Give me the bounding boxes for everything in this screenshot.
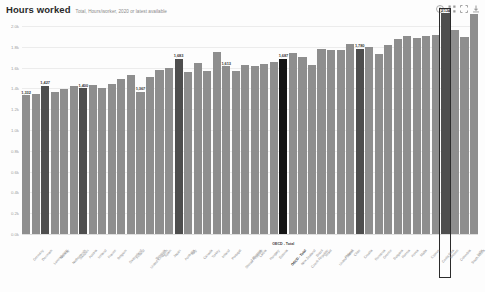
bar[interactable]	[194, 63, 202, 234]
bar[interactable]	[98, 88, 106, 234]
bar-slot[interactable]	[194, 26, 202, 234]
bar-slot[interactable]	[413, 26, 421, 234]
bar[interactable]	[41, 86, 49, 234]
bar[interactable]	[337, 50, 345, 234]
bar[interactable]	[270, 62, 278, 234]
bar[interactable]	[146, 77, 154, 234]
bar[interactable]	[251, 66, 259, 234]
x-axis-label[interactable]: Malta	[420, 249, 429, 258]
bar[interactable]	[51, 92, 59, 234]
bar-slot[interactable]	[327, 26, 335, 234]
bar[interactable]	[470, 14, 478, 234]
bar-slot[interactable]	[375, 26, 383, 234]
bar-slot[interactable]	[451, 26, 459, 234]
bar[interactable]	[375, 54, 383, 234]
bar-slot[interactable]: 1,427	[41, 26, 49, 234]
bar[interactable]	[460, 37, 468, 234]
bar-slot[interactable]	[51, 26, 59, 234]
bar[interactable]	[108, 84, 116, 234]
x-axis-label[interactable]: Colombia	[460, 249, 473, 262]
bar-slot[interactable]	[203, 26, 211, 234]
bar-slot[interactable]	[70, 26, 78, 234]
bar[interactable]	[32, 94, 40, 234]
bar[interactable]	[279, 59, 287, 234]
x-axis-label[interactable]: Cyprus	[430, 249, 440, 260]
bar[interactable]	[165, 68, 173, 234]
bar-slot[interactable]: 1,683	[175, 26, 183, 234]
bar[interactable]	[222, 66, 230, 234]
bar-slot[interactable]	[394, 26, 402, 234]
bar-slot[interactable]	[251, 26, 259, 234]
bar-slot[interactable]	[422, 26, 430, 234]
download-icon[interactable]	[472, 5, 480, 13]
bar-slot[interactable]	[308, 26, 316, 234]
bar[interactable]	[327, 50, 335, 234]
x-axis-label[interactable]: France	[107, 249, 117, 260]
x-axis-label[interactable]: Japan	[173, 249, 182, 259]
bar-slot[interactable]	[241, 26, 249, 234]
bar[interactable]	[79, 88, 87, 234]
fullscreen-icon[interactable]	[460, 5, 468, 13]
bar[interactable]	[203, 71, 211, 234]
bar[interactable]	[317, 49, 325, 234]
bar[interactable]	[89, 85, 97, 234]
bar[interactable]	[155, 70, 163, 234]
bar[interactable]	[346, 44, 354, 234]
x-axis-label[interactable]: Iceland	[97, 249, 107, 260]
bar-slot[interactable]	[460, 26, 468, 234]
bar[interactable]	[117, 79, 125, 234]
bar-slot[interactable]	[146, 26, 154, 234]
bar-slot[interactable]: 1,613	[222, 26, 230, 234]
x-axis-label[interactable]: Korea	[410, 249, 419, 258]
bar-slot[interactable]	[365, 26, 373, 234]
bar-slot[interactable]	[298, 26, 306, 234]
bar-slot[interactable]	[98, 26, 106, 234]
x-axis-label[interactable]: Croatia	[363, 249, 373, 260]
x-axis-label[interactable]: Norway	[60, 249, 71, 260]
bar-slot[interactable]	[213, 26, 221, 234]
bar-slot[interactable]	[165, 26, 173, 234]
bar-slot[interactable]: 1,400	[79, 26, 87, 234]
bar[interactable]	[308, 65, 316, 234]
bar-slot[interactable]	[32, 26, 40, 234]
bar[interactable]	[441, 13, 449, 234]
bar[interactable]	[384, 45, 392, 234]
bar[interactable]	[451, 30, 459, 234]
bar-slot[interactable]	[127, 26, 135, 234]
bar-slot[interactable]	[346, 26, 354, 234]
bar[interactable]	[413, 38, 421, 234]
bar-slot[interactable]	[270, 26, 278, 234]
bar-slot[interactable]	[260, 26, 268, 234]
bar[interactable]	[241, 65, 249, 234]
bar-slot[interactable]	[384, 26, 392, 234]
bar[interactable]	[289, 53, 297, 234]
bar-slot[interactable]	[317, 26, 325, 234]
bar[interactable]	[260, 64, 268, 234]
bar-slot[interactable]	[403, 26, 411, 234]
x-axis-label[interactable]: Ireland	[221, 249, 231, 259]
bar-slot[interactable]	[184, 26, 192, 234]
bar-slot[interactable]	[232, 26, 240, 234]
bar-slot[interactable]	[108, 26, 116, 234]
bar-slot[interactable]	[470, 26, 478, 234]
x-axis-label[interactable]: Italy	[191, 249, 198, 256]
bar-slot[interactable]	[337, 26, 345, 234]
bar[interactable]	[232, 71, 240, 234]
bar[interactable]	[394, 39, 402, 234]
bar[interactable]	[184, 72, 192, 234]
bar[interactable]	[422, 36, 430, 234]
bar-slot[interactable]: 1,367	[136, 26, 144, 234]
bar[interactable]	[70, 86, 78, 234]
bar[interactable]	[298, 57, 306, 234]
bar[interactable]	[136, 92, 144, 234]
bar-slot[interactable]: 1,332	[22, 26, 30, 234]
bar-slot[interactable]	[432, 26, 440, 234]
bar-slot[interactable]	[117, 26, 125, 234]
bar-slot[interactable]	[89, 26, 97, 234]
x-axis-label[interactable]: Portugal	[231, 249, 242, 261]
bar[interactable]	[22, 95, 30, 234]
bar[interactable]	[356, 49, 364, 234]
bar-slot[interactable]: 2,124	[441, 26, 449, 234]
bar[interactable]	[403, 36, 411, 234]
bar-slot[interactable]: 1,780	[356, 26, 364, 234]
